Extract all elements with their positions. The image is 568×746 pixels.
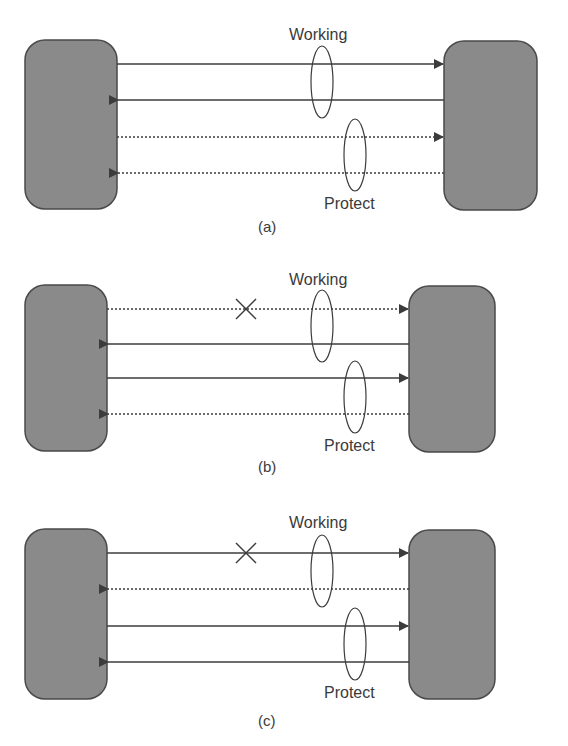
panel-a: Working Protect (a) [25, 26, 537, 235]
protect-label: Protect [324, 195, 375, 212]
right-node [409, 286, 495, 452]
right-node [409, 530, 495, 699]
working-group-ellipse [311, 535, 333, 607]
protect-group-ellipse [344, 119, 366, 191]
working-group-ellipse [311, 290, 333, 362]
panel-caption: (b) [258, 458, 276, 475]
left-node [25, 529, 107, 699]
protect-group-ellipse [344, 361, 366, 433]
panel-caption: (c) [258, 712, 276, 729]
working-label: Working [289, 26, 347, 43]
left-node [25, 40, 117, 209]
protect-label: Protect [324, 437, 375, 454]
panel-caption: (a) [258, 218, 276, 235]
left-node [25, 285, 107, 451]
panel-c: Working Protect (c) [25, 514, 495, 729]
protect-label: Protect [324, 684, 375, 701]
panel-b: Working Protect (b) [25, 271, 495, 475]
protection-switching-diagram: Working Protect (a) Working Protect (b) [0, 0, 568, 746]
working-label: Working [289, 514, 347, 531]
protect-group-ellipse [344, 608, 366, 680]
working-label: Working [289, 271, 347, 288]
right-node [444, 41, 537, 210]
working-group-ellipse [311, 46, 333, 118]
